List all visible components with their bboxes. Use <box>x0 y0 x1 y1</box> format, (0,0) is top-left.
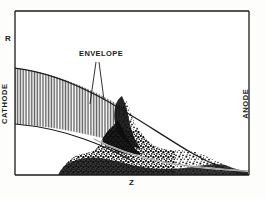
discharge-envelope-plot <box>0 0 265 199</box>
envelope-annotation-label: ENVELOPE <box>79 50 123 58</box>
anode-label: ANODE <box>242 89 250 119</box>
figure-container: R Z CATHODE ANODE ENVELOPE <box>0 0 265 199</box>
r-axis-label: R <box>5 35 11 43</box>
cathode-label: CATHODE <box>1 83 9 124</box>
z-axis-label: Z <box>129 179 134 187</box>
